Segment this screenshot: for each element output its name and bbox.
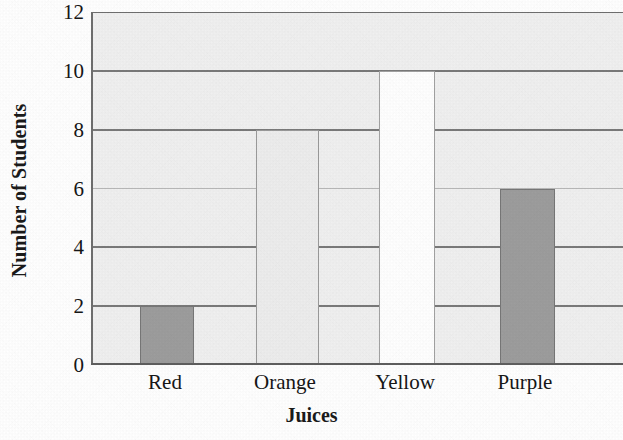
y-axis-title: Number of Students	[0, 0, 40, 380]
bar-red	[140, 306, 194, 365]
y-tick-label: 10	[40, 60, 84, 81]
plot-area	[91, 12, 623, 365]
gridline	[93, 129, 623, 131]
x-axis-tick-labels: RedOrangeYellowPurple	[0, 369, 623, 401]
bar-chart: Number of Students 024681012 RedOrangeYe…	[0, 0, 623, 440]
bar-orange	[256, 130, 319, 365]
y-tick-label: 4	[40, 237, 84, 258]
x-axis-line	[91, 363, 623, 365]
y-tick-label: 12	[40, 2, 84, 23]
y-axis-title-text: Number of Students	[9, 103, 32, 277]
x-axis-title-text: Juices	[285, 404, 337, 427]
x-tick-label: Orange	[254, 369, 316, 395]
y-tick-label: 6	[40, 178, 84, 199]
bar-yellow	[379, 71, 435, 365]
x-tick-label: Purple	[498, 369, 553, 395]
bar-purple	[500, 189, 555, 366]
gridline	[93, 12, 623, 13]
x-tick-label: Red	[148, 369, 182, 395]
y-tick-label: 2	[40, 296, 84, 317]
y-tick-label: 8	[40, 119, 84, 140]
gridline	[93, 70, 623, 72]
x-axis-title: Juices	[0, 404, 623, 427]
x-tick-label: Yellow	[375, 369, 435, 395]
